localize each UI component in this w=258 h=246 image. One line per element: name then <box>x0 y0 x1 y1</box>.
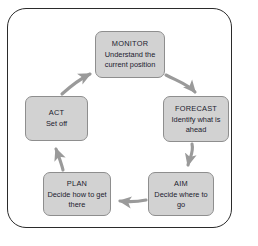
edge-act-to-monitor <box>62 74 90 94</box>
node-act-title: ACT <box>49 108 65 118</box>
node-act-desc: Set off <box>46 119 67 129</box>
node-monitor-desc: Understand the current position <box>99 50 161 69</box>
diagram-canvas: MONITOR Understand the current position … <box>0 0 258 246</box>
node-forecast[interactable]: FORECAST Identify what is ahead <box>163 96 229 142</box>
edge-monitor-to-forecast <box>166 75 195 92</box>
node-monitor-title: MONITOR <box>112 39 149 49</box>
node-plan[interactable]: PLAN Decide how to get there <box>43 172 111 216</box>
node-plan-title: PLAN <box>67 179 87 189</box>
node-aim-title: AIM <box>174 179 188 189</box>
node-forecast-desc: Identify what is ahead <box>167 115 225 134</box>
node-aim-desc: Decide where to go <box>152 190 210 209</box>
node-aim[interactable]: AIM Decide where to go <box>148 172 214 216</box>
edge-aim-to-plan <box>120 200 146 202</box>
node-act[interactable]: ACT Set off <box>25 96 88 141</box>
edge-forecast-to-aim <box>188 144 193 165</box>
node-monitor[interactable]: MONITOR Understand the current position <box>95 31 165 78</box>
node-plan-desc: Decide how to get there <box>47 190 107 209</box>
node-forecast-title: FORECAST <box>175 104 217 114</box>
edge-plan-to-act <box>56 149 63 170</box>
